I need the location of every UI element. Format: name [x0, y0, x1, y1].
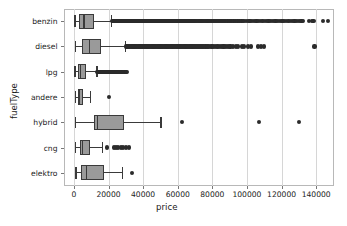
y-tick-label: hybrid: [0, 118, 58, 127]
y-tick-label: lpg: [0, 67, 58, 76]
outlier-point: [312, 44, 316, 48]
x-tick-label: 40000: [131, 190, 155, 199]
whisker-line: [75, 122, 94, 123]
whisker-line: [94, 21, 111, 22]
whisker-cap: [75, 142, 76, 154]
x-tick-mark: [316, 186, 317, 189]
x-tick-label: 60000: [166, 190, 190, 199]
whisker-line: [83, 97, 90, 98]
whisker-cap: [74, 66, 75, 78]
y-tick-label: diesel: [0, 42, 58, 51]
whisker-line: [104, 172, 123, 173]
median-line: [97, 115, 98, 130]
whisker-cap: [75, 91, 76, 103]
y-tick-mark: [61, 72, 64, 73]
x-tick-label: 140000: [302, 190, 331, 199]
outlier-point: [130, 171, 134, 175]
whisker-line: [101, 46, 125, 47]
median-line: [89, 39, 90, 54]
plot-area: [64, 9, 334, 186]
y-tick-label: benzin: [0, 17, 58, 26]
whisker-cap: [102, 142, 103, 154]
box-iqr: [82, 39, 101, 54]
boxplot-figure: 020000400006000080000100000120000140000 …: [0, 0, 347, 226]
median-line: [83, 14, 84, 29]
x-tick-label: 20000: [96, 190, 120, 199]
x-tick-label: 120000: [267, 190, 296, 199]
x-tick-label: 0: [71, 190, 76, 199]
whisker-line: [124, 122, 161, 123]
x-tick-mark: [282, 186, 283, 189]
gridline: [247, 9, 248, 186]
x-tick-label: 80000: [200, 190, 224, 199]
median-line: [86, 165, 87, 180]
box-iqr: [94, 115, 123, 130]
outlier-point: [127, 145, 131, 149]
gridline: [178, 9, 179, 186]
box-iqr: [79, 14, 94, 29]
x-axis-title: price: [0, 202, 334, 212]
y-tick-mark: [61, 148, 64, 149]
outlier-point: [124, 70, 128, 74]
outlier-point: [311, 19, 315, 23]
median-line: [82, 140, 83, 155]
y-tick-label: elektro: [0, 168, 58, 177]
y-tick-mark: [61, 97, 64, 98]
x-tick-mark: [247, 186, 248, 189]
whisker-cap: [122, 167, 123, 179]
gridline: [282, 9, 283, 186]
x-tick-mark: [109, 186, 110, 189]
y-tick-mark: [61, 46, 64, 47]
y-tick-mark: [61, 122, 64, 123]
whisker-cap: [160, 117, 161, 129]
gridline: [212, 9, 213, 186]
whisker-cap: [75, 41, 76, 53]
median-line: [80, 64, 81, 79]
y-tick-label: cng: [0, 143, 58, 152]
whisker-cap: [90, 91, 91, 103]
x-tick-mark: [143, 186, 144, 189]
y-tick-mark: [61, 173, 64, 174]
x-tick-label: 100000: [232, 190, 261, 199]
median-line: [79, 89, 80, 104]
outlier-point: [262, 44, 266, 48]
x-tick-mark: [212, 186, 213, 189]
y-axis-title: fuelType: [9, 83, 19, 119]
x-tick-mark: [74, 186, 75, 189]
y-tick-mark: [61, 21, 64, 22]
outlier-point: [105, 145, 109, 149]
whisker-cap: [74, 15, 75, 27]
gridline: [143, 9, 144, 186]
box-iqr: [81, 165, 104, 180]
whisker-cap: [75, 117, 76, 129]
gridline: [316, 9, 317, 186]
x-tick-mark: [178, 186, 179, 189]
outlier-point: [249, 44, 253, 48]
whisker-line: [90, 147, 102, 148]
whisker-cap: [75, 167, 76, 179]
